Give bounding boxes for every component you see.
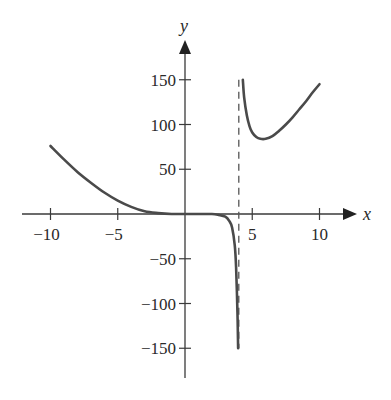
x-tick-label: −10	[33, 225, 60, 244]
y-tick-label: −100	[141, 295, 176, 314]
y-tick-label: 50	[159, 160, 176, 179]
labels: −10−551015010050−50−100−150xy	[33, 16, 371, 358]
x-tick-label: 10	[311, 225, 328, 244]
y-tick-label: −150	[141, 339, 176, 358]
function-graph: −10−551015010050−50−100−150xy	[0, 0, 391, 400]
x-axis-arrow-icon	[343, 208, 357, 220]
y-axis-label: y	[178, 16, 188, 36]
y-axis-arrow-icon	[179, 40, 191, 54]
x-tick-label: −5	[105, 225, 123, 244]
x-axis-label: x	[362, 204, 371, 224]
y-tick-label: −50	[149, 250, 176, 269]
curve-left-branch	[51, 146, 239, 348]
x-tick-label: 5	[248, 225, 257, 244]
y-tick-label: 100	[151, 116, 177, 135]
axes	[22, 40, 357, 378]
y-tick-label: 150	[151, 71, 177, 90]
curve-right-branch	[243, 80, 320, 139]
